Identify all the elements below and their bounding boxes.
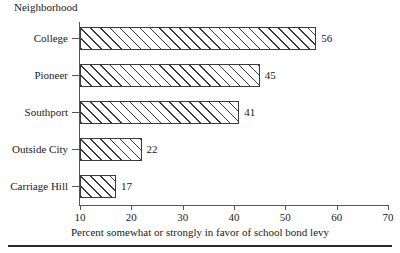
bar-row: Carriage Hill17 (0, 175, 400, 199)
bar-value-label: 17 (121, 179, 132, 194)
category-tick (72, 38, 80, 39)
x-axis-tick-label: 40 (214, 211, 254, 224)
bar-row: College56 (0, 27, 400, 51)
bar-value-label: 41 (244, 105, 255, 120)
x-axis-tick-mark (80, 205, 81, 210)
category-tick (72, 75, 80, 76)
x-axis-tick-mark (183, 205, 184, 210)
bottom-rule (8, 245, 392, 247)
bar-college (80, 27, 316, 50)
y-axis-group-title: Neighborhood (14, 1, 78, 14)
bar-row: Outside City22 (0, 138, 400, 162)
x-axis-tick-mark (234, 205, 235, 210)
bar-row: Pioneer45 (0, 64, 400, 88)
x-axis-tick-label: 50 (265, 211, 305, 224)
bar-value-label: 45 (265, 68, 276, 83)
x-axis-tick-mark (337, 205, 338, 210)
bar-carriage-hill (80, 175, 116, 198)
x-axis-tick-mark (131, 205, 132, 210)
category-tick (72, 112, 80, 113)
bar-row: Southport41 (0, 101, 400, 125)
bar-southport (80, 101, 239, 124)
category-tick (72, 186, 80, 187)
bar-value-label: 22 (147, 142, 158, 157)
bar-pioneer (80, 64, 260, 87)
bar-value-label: 56 (321, 31, 332, 46)
x-axis-tick-label: 30 (163, 211, 203, 224)
category-label-college: College (34, 31, 68, 46)
x-axis-tick-label: 10 (60, 211, 100, 224)
bar-outside-city (80, 138, 142, 161)
category-label-southport: Southport (25, 105, 68, 120)
category-tick (72, 149, 80, 150)
x-axis-tick-label: 60 (317, 211, 357, 224)
x-axis-tick-mark (285, 205, 286, 210)
x-axis-tick-label: 70 (368, 211, 400, 224)
x-axis-tick-mark (388, 205, 389, 210)
x-axis-tick-label: 20 (111, 211, 151, 224)
category-label-pioneer: Pioneer (34, 68, 68, 83)
category-label-carriage-hill: Carriage Hill (10, 179, 68, 194)
bar-chart-figure: Neighborhood College56Pioneer45Southport… (0, 0, 400, 253)
category-label-outside-city: Outside City (12, 142, 68, 157)
x-axis-title: Percent somewhat or strongly in favor of… (0, 226, 400, 239)
